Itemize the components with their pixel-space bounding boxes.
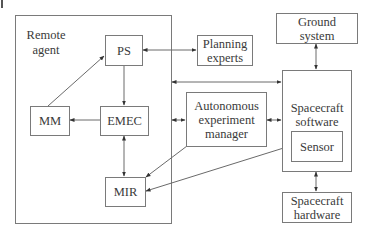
- node-aem-label: Autonomous experiment manager: [194, 99, 259, 141]
- node-mm-label: MM: [39, 114, 61, 128]
- node-sensor: Sensor: [291, 131, 343, 162]
- node-spacecraft-software-label: Spacecraft software: [291, 101, 344, 129]
- edge-aem-to-mir: [146, 146, 187, 177]
- node-emec: EMEC: [100, 106, 149, 136]
- node-spacecraft-hardware-label: Spacecraft hardware: [291, 194, 344, 222]
- edge-mm-to-ps: [48, 56, 104, 106]
- node-planning-experts-label: Planning experts: [203, 37, 247, 65]
- edge-mir-sensor: [146, 146, 290, 191]
- node-ps: PS: [105, 35, 143, 66]
- node-mm: MM: [30, 106, 70, 136]
- node-planning-experts: Planning experts: [197, 35, 253, 66]
- node-ps-label: PS: [117, 44, 131, 58]
- node-spacecraft-hardware: Spacecraft hardware: [282, 192, 352, 223]
- node-mir: MIR: [105, 177, 146, 207]
- node-sensor-label: Sensor: [300, 140, 334, 154]
- node-autonomous-experiment-manager: Autonomous experiment manager: [186, 92, 267, 147]
- node-mir-label: MIR: [114, 185, 138, 199]
- node-ground-system-label: Ground system: [298, 15, 336, 43]
- node-emec-label: EMEC: [107, 114, 142, 128]
- node-ground-system: Ground system: [276, 13, 358, 44]
